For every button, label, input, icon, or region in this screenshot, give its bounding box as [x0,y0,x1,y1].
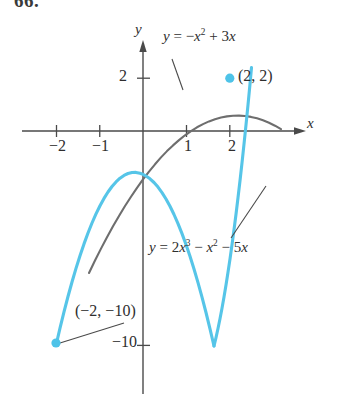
y-tick-label-2: 2 [119,68,127,84]
figure-page: 66. [0,0,338,402]
parabola-equation-label: y = −x2 + 3x [163,29,236,44]
x-tick-label-minus1: −1 [92,138,109,154]
cubic-equation-label: y = 2x3 − x2 − 5x [149,240,248,255]
y-axis-arrow [139,40,146,52]
x-axis-label: x [307,116,314,131]
point-label-minus2-minus10: (−2, −10) [75,303,136,319]
x-tick-label-minus2: −2 [49,138,66,154]
parabola-label-leader [172,59,183,90]
coordinate-plot [0,0,338,402]
point-marker-minus2-minus10 [51,338,60,347]
point-marker-2-2 [225,74,234,83]
x-tick-label-1: 1 [184,138,192,154]
y-axis [139,40,146,394]
x-tick-label-2: 2 [228,138,236,154]
x-axis-arrow [294,127,306,134]
x-axis [22,127,306,134]
y-axis-label: y [135,22,142,37]
cubic-curve-right-branch [214,68,252,347]
y-tick-label-minus10: −10 [112,334,137,350]
point-label-2-2: (2, 2) [238,68,273,84]
cubic-curve [56,172,214,346]
